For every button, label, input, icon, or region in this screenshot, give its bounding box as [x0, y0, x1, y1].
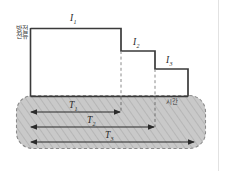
page: 방전 전류 I1 I2 I3 T1 T2 T3 시간	[0, 0, 234, 171]
time-label-T3: T3	[105, 131, 114, 142]
discharge-current-figure: 방전 전류 I1 I2 I3 T1 T2 T3 시간	[0, 0, 234, 171]
x-axis-label: 시간	[166, 99, 178, 106]
time-label-T2: T2	[87, 116, 96, 127]
time-label-T3-sub: 3	[110, 136, 113, 142]
time-label-T1-sub: 1	[74, 106, 77, 112]
current-label-I3: I3	[166, 56, 173, 67]
time-label-T1: T1	[69, 101, 78, 112]
current-label-I1-sub: 1	[73, 19, 76, 25]
y-axis-label: 방전 전류	[6, 26, 28, 41]
current-label-I1: I1	[70, 14, 77, 25]
y-axis-label-line2: 전류	[6, 33, 28, 40]
figure-svg	[0, 0, 234, 171]
time-label-T2-sub: 2	[92, 121, 95, 127]
current-label-I3-sub: 3	[169, 61, 172, 67]
current-step-curve	[31, 29, 189, 97]
current-label-I2: I2	[133, 38, 140, 49]
current-label-I2-sub: 2	[136, 43, 139, 49]
